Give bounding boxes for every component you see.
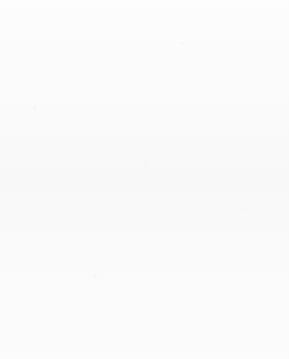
plot-frame-top bbox=[46, 22, 289, 23]
bar-neighbourhood-support-group1 bbox=[114, 177, 157, 359]
y-tick-20 bbox=[40, 140, 46, 141]
legend-label: Friendship groups bbox=[88, 31, 176, 42]
legend-swatch-open-icon bbox=[72, 32, 81, 41]
y-tick-label-25: 25 bbox=[4, 76, 36, 87]
bar-friendship-groups-group2 bbox=[190, 81, 234, 359]
y-tick-15 bbox=[40, 199, 46, 200]
y-tick-5 bbox=[40, 317, 46, 318]
legend-swatch-solid-icon bbox=[72, 50, 81, 59]
y-tick-25 bbox=[40, 81, 46, 82]
y-tick-10 bbox=[40, 258, 46, 259]
y-axis-line bbox=[46, 22, 47, 359]
legend-item-friendship-groups: Friendship groups bbox=[72, 30, 203, 43]
chart-legend: Friendship groups Neighbourhood support bbox=[72, 30, 203, 66]
y-tick-label-5: 5 bbox=[4, 312, 36, 323]
chart-title-text: Attitudes to the elderly, neighbourhood … bbox=[35, 0, 255, 2]
y-axis-label: % bbox=[2, 190, 11, 202]
plot-area bbox=[46, 22, 289, 359]
y-tick-30 bbox=[40, 22, 46, 23]
chart-title-cropped: Attitudes to the elderly, neighbourhood … bbox=[0, 0, 289, 7]
legend-item-neighbourhood-support: Neighbourhood support bbox=[72, 48, 203, 61]
y-tick-label-10: 10 bbox=[4, 253, 36, 264]
bar-neighbourhood-support-group2 bbox=[234, 165, 277, 359]
bar-friendship-groups-group1 bbox=[69, 108, 114, 359]
y-tick-label-20: 20 bbox=[4, 135, 36, 146]
gridline-25 bbox=[46, 81, 289, 82]
legend-label: Neighbourhood support bbox=[88, 49, 203, 60]
y-tick-label-30: 30 bbox=[4, 17, 36, 28]
